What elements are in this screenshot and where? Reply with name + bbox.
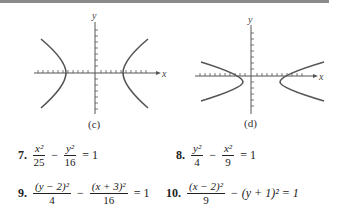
fraction: x² 9 — [222, 142, 234, 169]
problem-9: 9. (y − 2)² 4 − (x + 3)² 16 = 1 — [18, 180, 153, 207]
problem-number: 9. — [18, 186, 27, 201]
problem-number: 8. — [176, 148, 185, 163]
problem-10: 10. (x − 2)² 9 − (y + 1)² = 1 — [166, 180, 299, 207]
svg-text:y: y — [247, 14, 253, 25]
y-axis-label: y — [91, 10, 97, 21]
fraction: y² 16 — [64, 142, 76, 169]
svg-text:x: x — [318, 71, 324, 82]
fraction: (y − 2)² 4 — [33, 180, 71, 207]
problem-number: 7. — [18, 148, 27, 163]
problem-number: 10. — [166, 186, 181, 201]
figure-caption-d: (d) — [244, 117, 257, 129]
x-axis-label: x — [161, 68, 167, 79]
problem-8: 8. y² 4 − x² 9 = 1 — [176, 142, 260, 169]
problem-7: 7. x² 25 − y² 16 = 1 — [18, 142, 102, 169]
fraction: (x − 2)² 9 — [187, 180, 225, 207]
figure-caption-c: (c) — [88, 118, 100, 130]
fraction: (x + 3)² 16 — [90, 180, 128, 207]
fraction: y² 4 — [191, 142, 203, 169]
fraction: x² 25 — [33, 142, 45, 169]
